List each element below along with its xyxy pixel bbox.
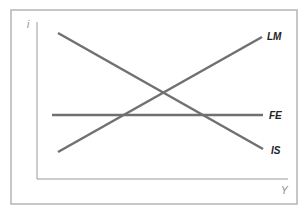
lm-curve [58,37,262,152]
lm-label: LM [267,31,282,42]
x-axis-label: Y [281,185,289,196]
outer-frame [11,10,297,204]
is-curve [58,33,263,149]
fe-label: FE [269,110,282,121]
is-lm-fe-diagram: i Y LM FE IS [0,0,304,214]
is-label: IS [271,145,281,156]
y-axis-label: i [27,19,30,30]
